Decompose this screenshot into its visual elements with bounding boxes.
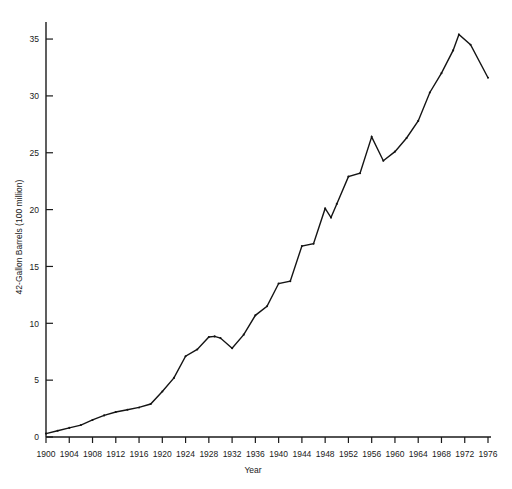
x-tick-label: 1904: [60, 449, 79, 459]
data-point: [470, 44, 472, 46]
axes: 05101520253035 1900190419081912191619201…: [30, 22, 498, 459]
x-tick-label: 1932: [223, 449, 242, 459]
data-point: [324, 207, 326, 209]
data-point: [359, 172, 361, 174]
data-point: [487, 77, 489, 79]
x-tick-label: 1968: [432, 449, 451, 459]
data-point: [417, 120, 419, 122]
y-tick-label: 20: [30, 205, 40, 215]
x-tick-label: 1956: [362, 449, 381, 459]
x-tick-label: 1952: [339, 449, 358, 459]
data-point: [91, 419, 93, 421]
x-tick-label: 1972: [455, 449, 474, 459]
y-axis-ticks: [46, 39, 53, 437]
x-tick-label: 1908: [83, 449, 102, 459]
x-tick-label: 1940: [269, 449, 288, 459]
data-point: [150, 403, 152, 405]
data-point: [126, 409, 128, 411]
data-point: [429, 91, 431, 93]
x-tick-label: 1976: [479, 449, 498, 459]
data-point: [458, 33, 460, 35]
data-point: [80, 424, 82, 426]
series-line-us-crude-oil-production: [46, 35, 488, 434]
y-tick-label: 5: [34, 375, 39, 385]
y-tick-label: 0: [34, 432, 39, 442]
data-point: [57, 430, 59, 432]
y-axis-label: 42-Gallon Barrels (100 million): [14, 179, 24, 294]
y-tick-label: 25: [30, 148, 40, 158]
y-axis-tick-labels: 05101520253035: [30, 34, 40, 442]
data-series-group: [45, 33, 489, 434]
data-point: [208, 336, 210, 338]
data-point: [301, 245, 303, 247]
data-point: [440, 72, 442, 74]
x-tick-label: 1916: [130, 449, 149, 459]
x-tick-label: 1920: [153, 449, 172, 459]
x-tick-label: 1948: [316, 449, 335, 459]
x-tick-label: 1944: [292, 449, 311, 459]
x-tick-label: 1912: [106, 449, 125, 459]
x-axis-label: Year: [244, 465, 261, 475]
data-point: [336, 203, 338, 205]
data-point: [406, 137, 408, 139]
data-point: [196, 348, 198, 350]
data-point: [330, 217, 332, 219]
chart-figure: 05101520253035 1900190419081912191619201…: [0, 0, 512, 489]
data-point: [394, 151, 396, 153]
data-point: [214, 335, 216, 337]
data-point: [45, 433, 47, 435]
data-point: [115, 411, 117, 413]
x-tick-label: 1900: [37, 449, 56, 459]
data-point: [219, 337, 221, 339]
x-tick-label: 1936: [246, 449, 265, 459]
data-point: [68, 427, 70, 429]
y-tick-label: 30: [30, 91, 40, 101]
y-tick-label: 10: [30, 319, 40, 329]
data-point: [371, 136, 373, 138]
x-tick-label: 1960: [385, 449, 404, 459]
data-point: [312, 243, 314, 245]
data-point: [103, 414, 105, 416]
line-chart-svg: 05101520253035 1900190419081912191619201…: [0, 0, 512, 489]
data-point: [185, 355, 187, 357]
y-tick-label: 35: [30, 34, 40, 44]
data-point: [138, 406, 140, 408]
data-point: [452, 49, 454, 51]
x-axis-tick-labels: 1900190419081912191619201924192819321936…: [37, 449, 498, 459]
data-point: [243, 334, 245, 336]
x-axis-ticks: [46, 437, 488, 443]
x-tick-label: 1964: [409, 449, 428, 459]
data-point: [347, 176, 349, 178]
data-point: [173, 377, 175, 379]
data-point: [254, 314, 256, 316]
x-tick-label: 1928: [199, 449, 218, 459]
data-point: [231, 347, 233, 349]
data-point: [278, 282, 280, 284]
x-tick-label: 1924: [176, 449, 195, 459]
data-point: [289, 280, 291, 282]
data-point: [382, 160, 384, 162]
series-markers: [45, 33, 489, 434]
data-point: [161, 390, 163, 392]
y-tick-label: 15: [30, 262, 40, 272]
data-point: [266, 305, 268, 307]
